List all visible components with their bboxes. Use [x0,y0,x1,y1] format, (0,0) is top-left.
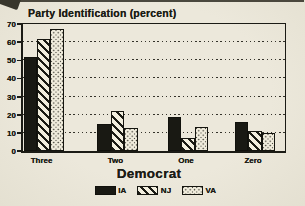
legend-label-IA: IA [118,186,126,195]
y-tick-label-40: 40 [7,75,16,83]
legend-label-VA: VA [206,186,217,195]
bar-NJ-Three [37,39,50,151]
legend-label-NJ: NJ [161,186,171,195]
bar-IA-One [168,117,181,151]
bar-IA-Zero [235,122,248,151]
y-tick-mark-50 [17,60,22,62]
legend-swatch-IA [95,186,116,195]
y-tick-mark-30 [17,96,22,98]
bar-NJ-Zero [248,131,261,151]
y-tick-label-10: 10 [7,130,16,138]
legend-swatch-NJ [137,186,158,195]
y-tick-label-60: 60 [7,39,16,47]
y-tick-label-20: 20 [7,112,16,120]
y-tick-mark-0 [17,150,22,152]
legend: IANJVA [3,186,305,195]
chart-title: Party Identification (percent) [28,7,176,19]
bar-IA-Two [97,124,110,151]
bar-VA-Zero [262,133,275,151]
x-axis-title: Democrat [16,166,282,181]
bar-VA-Two [124,128,137,151]
y-tick-mark-40 [17,78,22,80]
y-tick-label-0: 0 [12,148,16,156]
x-axis-labels: ThreeTwoOneZero [21,156,287,166]
scan-corner-smudge [0,0,21,10]
scan-edge-line [10,0,304,2]
y-tick-mark-20 [17,114,22,116]
y-tick-mark-10 [17,132,22,134]
legend-item-IA: IA [95,186,127,195]
legend-item-NJ: NJ [137,186,171,195]
legend-swatch-VA [182,186,203,195]
bar-VA-Three [50,29,63,151]
bar-NJ-Two [111,111,124,151]
x-category-label-Three: Three [31,156,53,165]
y-tick-mark-70 [17,23,22,25]
bar-NJ-One [181,138,194,151]
y-tick-label-30: 30 [7,94,16,102]
y-tick-mark-60 [17,41,22,43]
y-tick-label-50: 50 [7,57,16,65]
bar-IA-Three [24,57,37,151]
plot-area [21,23,286,153]
legend-item-VA: VA [182,186,216,195]
x-category-label-Zero: Zero [244,156,261,165]
bar-VA-One [195,127,208,151]
x-category-label-Two: Two [108,156,123,165]
scanned-chart-page: Party Identification (percent) 010203040… [0,0,305,206]
y-tick-label-70: 70 [7,21,16,29]
x-category-label-One: One [178,156,194,165]
